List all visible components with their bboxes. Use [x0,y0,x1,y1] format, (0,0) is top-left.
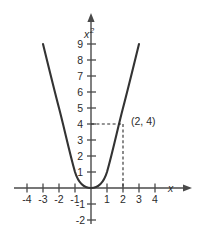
x-axis-arrow-icon [183,184,192,191]
y-tick-label: 1 [77,166,83,178]
y-tick-label: 2 [77,150,83,162]
x-tick-label: -4 [22,193,31,205]
y-axis [87,13,94,224]
x-tick-label: -3 [38,193,47,205]
parabola-chart: -4 -3 -2 -1 1 2 3 4 1 2 3 4 5 6 7 8 9 -1… [0,0,207,237]
y-tick-labels: 1 2 3 4 5 6 7 8 9 -1 -2 [76,38,85,226]
chart-svg: -4 -3 -2 -1 1 2 3 4 1 2 3 4 5 6 7 8 9 -1… [0,0,207,237]
x-tick-label: 3 [136,193,142,205]
y-axis-title-exponent: 2 [89,26,95,35]
y-tick-label: 6 [77,86,83,98]
y-axis-title: x 2 [83,26,95,40]
y-tick-label: 4 [77,118,83,130]
y-axis-title-base: x [83,28,90,40]
x-axis [14,184,192,191]
y-tick-label: 7 [77,70,83,82]
x-axis-title: x [167,182,174,194]
y-axis-arrow-icon [87,13,94,22]
x-tick-label: 2 [120,193,126,205]
y-tick-label-negative: -1 [76,198,85,210]
y-tick-label: 5 [77,102,83,114]
x-tick-label: -2 [54,193,63,205]
x-tick-labels: -4 -3 -2 -1 1 2 3 4 [22,193,158,205]
x-tick-label: 4 [152,193,158,205]
y-tick-label: 3 [77,134,83,146]
y-tick-label: 8 [77,54,83,66]
y-tick-label-negative: -2 [76,214,85,226]
point-annotation-label: (2, 4) [131,115,156,127]
x-tick-label: 1 [104,193,110,205]
y-tick-label: 9 [77,38,83,50]
